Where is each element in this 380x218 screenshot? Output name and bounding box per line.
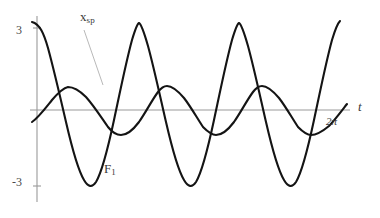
xsp-leader-line (84, 30, 103, 85)
xsp-label-sub: sp (87, 15, 95, 25)
y-tick-label-minus3: -3 (12, 176, 22, 188)
xsp-curve-label: xsp (80, 10, 95, 23)
f1-curve-label: F1 (104, 162, 116, 175)
x-axis-label: t (358, 100, 362, 113)
xsp-label-main: x (80, 9, 87, 24)
plot-figure: 3 -3 xsp F1 t 2π (0, 0, 380, 218)
f1-label-sub: 1 (111, 167, 116, 177)
plot-canvas (0, 0, 380, 218)
curve-f1 (32, 21, 340, 186)
y-tick-label-3: 3 (16, 24, 22, 36)
x-tick-label-2pi: 2π (326, 116, 337, 127)
